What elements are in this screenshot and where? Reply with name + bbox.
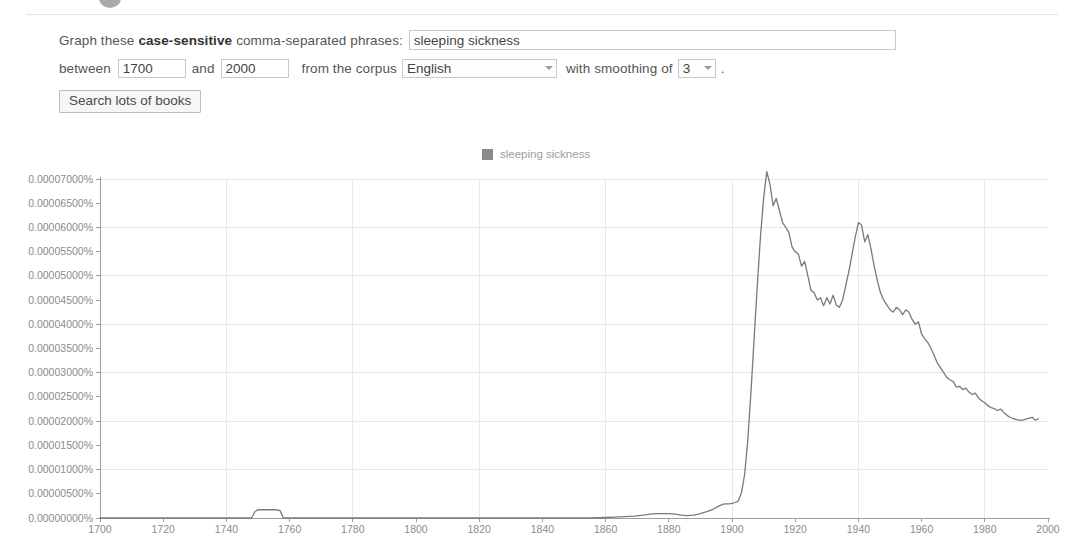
chart-axes (96, 177, 1050, 522)
header-divider (26, 14, 1058, 15)
start-year-input[interactable] (118, 59, 186, 78)
svg-text:0.00002500%: 0.00002500% (28, 390, 93, 402)
svg-text:0.00007000%: 0.00007000% (28, 173, 93, 185)
ngrams-logo-icon (99, 0, 121, 8)
chart-series (100, 172, 1039, 518)
svg-text:0.00004500%: 0.00004500% (28, 294, 93, 306)
search-button[interactable]: Search lots of books (59, 90, 201, 113)
svg-text:1740: 1740 (215, 523, 239, 535)
svg-text:1700: 1700 (88, 523, 112, 535)
corpus-select[interactable]: English (402, 59, 557, 78)
label-comma-separated-phrases: comma-separated phrases: (236, 33, 403, 48)
svg-text:0.00003500%: 0.00003500% (28, 342, 93, 354)
svg-text:0.00000500%: 0.00000500% (28, 487, 93, 499)
chart-plot[interactable]: 0.00000000%0.00000500%0.00001000%0.00001… (0, 140, 1085, 545)
ngram-chart: sleeping sickness 0.00000000%0.00000500%… (0, 140, 1085, 545)
svg-text:1940: 1940 (847, 523, 871, 535)
phrases-input[interactable] (409, 30, 896, 50)
svg-text:1900: 1900 (720, 523, 744, 535)
corpus-select-wrapper: English (402, 59, 557, 78)
svg-text:0.00005000%: 0.00005000% (28, 269, 93, 281)
svg-text:2000: 2000 (1036, 523, 1060, 535)
label-case-sensitive: case-sensitive (138, 33, 232, 48)
smoothing-select[interactable]: 3 (678, 59, 716, 78)
svg-text:1920: 1920 (784, 523, 808, 535)
svg-text:0.00002000%: 0.00002000% (28, 415, 93, 427)
svg-text:1960: 1960 (910, 523, 934, 535)
chart-ytick-labels: 0.00000000%0.00000500%0.00001000%0.00001… (28, 173, 93, 524)
svg-text:0.00001500%: 0.00001500% (28, 439, 93, 451)
label-with-smoothing-of: with smoothing of (566, 61, 673, 76)
svg-text:1760: 1760 (278, 523, 302, 535)
submit-row: Search lots of books (59, 84, 959, 112)
label-and: and (192, 61, 215, 76)
svg-text:1860: 1860 (594, 523, 618, 535)
svg-text:0.00003000%: 0.00003000% (28, 366, 93, 378)
range-corpus-row: between and from the corpus English with… (59, 56, 959, 80)
svg-text:1880: 1880 (657, 523, 681, 535)
svg-text:0.00004000%: 0.00004000% (28, 318, 93, 330)
svg-text:1720: 1720 (152, 523, 176, 535)
svg-text:0.00000000%: 0.00000000% (28, 512, 93, 524)
svg-text:0.00001000%: 0.00001000% (28, 463, 93, 475)
svg-text:0.00006000%: 0.00006000% (28, 221, 93, 233)
svg-text:1800: 1800 (404, 523, 428, 535)
smoothing-select-wrapper: 3 (678, 59, 716, 78)
chart-gridlines (100, 179, 1048, 518)
phrases-row: Graph these case-sensitive comma-separat… (59, 28, 959, 52)
svg-text:1820: 1820 (468, 523, 492, 535)
svg-text:0.00006500%: 0.00006500% (28, 197, 93, 209)
svg-text:1840: 1840 (531, 523, 555, 535)
label-graph-these: Graph these (59, 33, 134, 48)
label-between: between (59, 61, 111, 76)
label-period: . (721, 61, 725, 76)
label-from-the-corpus: from the corpus (302, 61, 397, 76)
svg-text:1980: 1980 (973, 523, 997, 535)
end-year-input[interactable] (221, 59, 289, 78)
ngram-query-form: Graph these case-sensitive comma-separat… (59, 28, 959, 112)
svg-text:1780: 1780 (341, 523, 365, 535)
svg-text:0.00005500%: 0.00005500% (28, 245, 93, 257)
chart-xtick-labels: 1700172017401760178018001820184018601880… (88, 523, 1060, 535)
